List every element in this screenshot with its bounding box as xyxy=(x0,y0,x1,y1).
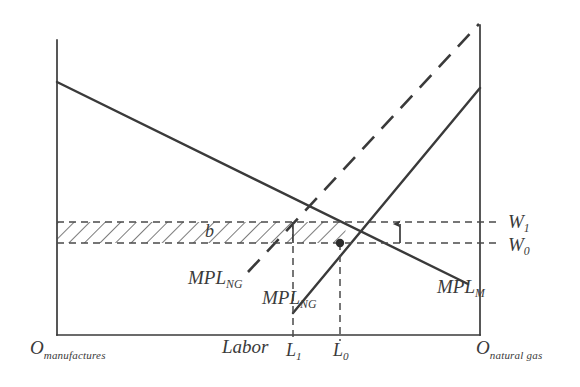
curve-label-mpl-m: MPLM xyxy=(437,277,485,296)
curve-label-mpl-ng-dashed: MPLNG xyxy=(188,268,243,287)
origin-right: Onatural gas xyxy=(476,338,542,357)
figure-canvas: Omanufactures Onatural gas Labor b MPLNG… xyxy=(0,0,580,387)
curve-label-mpl-ng-solid: MPLNG xyxy=(262,288,317,307)
equilibrium-point xyxy=(336,239,344,247)
origin-right-symbol: O xyxy=(476,337,490,358)
origin-right-subscript: natural gas xyxy=(490,349,543,361)
axis-label-labor: Labor xyxy=(222,337,268,356)
labor-label-l0: L0 xyxy=(333,341,349,359)
origin-left-subscript: manufactures xyxy=(44,349,106,361)
diagram-svg xyxy=(0,0,580,387)
labor-label-l1: L1 xyxy=(286,341,302,359)
wage-label-w1: W1 xyxy=(508,212,530,231)
shaded-region-label-b: b xyxy=(205,222,214,240)
origin-left: Omanufactures xyxy=(30,338,106,357)
curve-mpl-ng-dashed xyxy=(248,24,479,272)
curve-mpl-m xyxy=(57,82,468,284)
origin-left-symbol: O xyxy=(30,337,44,358)
wage-label-w0: W0 xyxy=(508,235,530,254)
